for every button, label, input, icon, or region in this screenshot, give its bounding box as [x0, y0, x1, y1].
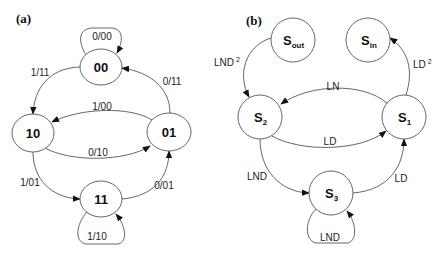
edge-s1-to-sin — [390, 38, 409, 95]
edge-01-to-00 — [122, 68, 170, 113]
edge-label-lnd-s2-s3: LND — [247, 171, 267, 182]
edge-label-1-10: 1/10 — [87, 231, 107, 242]
edge-label-0-00: 0/00 — [92, 31, 112, 42]
edge-label-0-11: 0/11 — [163, 76, 182, 87]
edge-sout-to-s2 — [244, 38, 271, 97]
state-00-label: 00 — [94, 60, 108, 75]
edge-label-ld-s2-s1: LD — [324, 136, 337, 147]
state-s2: S2 — [238, 95, 282, 139]
edge-label-ld2: LD2 — [413, 58, 432, 70]
state-s3: S3 — [309, 171, 353, 215]
edge-label-lnd2: LND2 — [214, 56, 240, 68]
panel-a: (a) 00 10 01 11 0/00 1/11 0/11 1/0 — [12, 11, 191, 244]
panel-b-label: (b) — [246, 13, 262, 28]
edge-label-1-01: 1/01 — [20, 177, 40, 188]
edge-label-lnd-self: LND — [320, 232, 340, 243]
state-11: 11 — [80, 181, 122, 217]
state-s-in: Sin — [346, 18, 390, 62]
edge-s2-to-s3 — [260, 139, 309, 193]
state-01: 01 — [147, 113, 191, 151]
edge-label-0-10: 0/10 — [88, 147, 108, 158]
edge-label-1-00: 1/00 — [92, 101, 112, 112]
edge-01-to-10 — [52, 110, 152, 122]
panel-b: (b) Sout Sin S2 S1 S3 LND2 — [214, 13, 432, 243]
panel-a-label: (a) — [16, 11, 31, 26]
state-00: 00 — [80, 49, 122, 85]
state-s1: S1 — [382, 95, 426, 139]
edge-10-to-11 — [33, 152, 80, 199]
edge-label-0-01: 0/01 — [154, 180, 174, 191]
edge-11-to-01 — [122, 151, 169, 199]
state-10: 10 — [12, 114, 54, 152]
edge-label-ln: LN — [327, 81, 340, 92]
edge-label-1-11: 1/11 — [31, 67, 50, 78]
state-01-label: 01 — [162, 125, 176, 140]
state-s-out: Sout — [271, 18, 315, 62]
edge-s3-to-s1 — [353, 139, 404, 193]
edge-label-ld-s3-s1: LD — [395, 173, 408, 184]
state-diagram-figure: (a) 00 10 01 11 0/00 1/11 0/11 1/0 — [0, 0, 445, 260]
state-11-label: 11 — [94, 192, 108, 207]
state-10-label: 10 — [26, 126, 40, 141]
